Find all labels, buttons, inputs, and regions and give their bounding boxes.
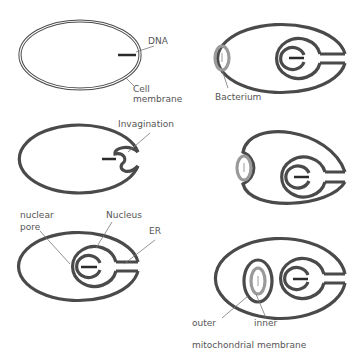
panel-1-cell: DNA Cell membrane [20,21,183,104]
panel-2-invagination: Invagination [19,119,174,193]
label-nuclear-pore-1: nuclear [20,210,54,220]
panel-5-engulfing [237,132,345,204]
label-er: ER [149,226,161,236]
label-dna: DNA [148,36,169,46]
label-nucleus: Nucleus [106,210,142,220]
label-cell-membrane-2: membrane [133,94,183,104]
label-bacterium: Bacterium [215,92,261,102]
label-inner: inner [254,318,277,328]
panel-3-nucleus: nuclear pore Nucleus ER [19,210,161,300]
label-cell-membrane-1: Cell [133,84,150,94]
label-mitochondrial-membrane: mitochondrial membrane [192,340,307,350]
label-invagination: Invagination [118,119,174,129]
panel-4-bacterium: Bacterium [215,24,345,102]
panel-6-mitochondrion: outer inner mitochondrial membrane [192,239,345,350]
label-outer: outer [192,318,216,328]
endosymbiosis-diagram: DNA Cell membrane Invagination nuclear p… [0,0,362,353]
label-nuclear-pore-2: pore [20,222,41,232]
